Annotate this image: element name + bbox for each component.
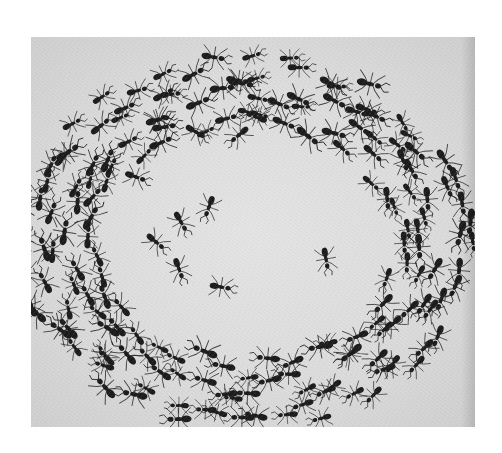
edge-shadow bbox=[461, 37, 475, 427]
film-grain bbox=[31, 37, 475, 427]
ant-mill-photograph bbox=[31, 37, 475, 427]
